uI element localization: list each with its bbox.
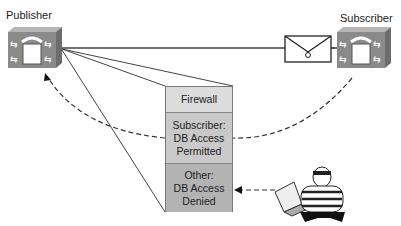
subscriber-access-path (233, 78, 352, 138)
svg-text:⇆: ⇆ (44, 54, 52, 64)
publisher-label: Publisher (6, 9, 52, 21)
firewall-header: Firewall (166, 87, 232, 113)
subscriber-permitted-rule: Subscriber: DB Access Permitted (166, 113, 232, 164)
firewall-stack: Firewall Subscriber: DB Access Permitted… (165, 86, 233, 212)
attacker-icon (275, 167, 345, 222)
svg-text:⇆: ⇆ (339, 54, 347, 64)
subscriber-device-icon: ⇆ ⇆ ⇆ ⇆ (337, 27, 391, 68)
svg-text:⇆: ⇆ (373, 54, 381, 64)
svg-text:⇆: ⇆ (339, 39, 347, 49)
svg-text:⇆: ⇆ (44, 39, 52, 49)
publisher-device-icon: ⇆ ⇆ ⇆ ⇆ (8, 27, 62, 68)
svg-text:⇆: ⇆ (10, 54, 18, 64)
diagram-canvas: ⇆ ⇆ ⇆ ⇆ ⇆ ⇆ ⇆ ⇆ (0, 0, 401, 226)
svg-text:⇆: ⇆ (373, 39, 381, 49)
envelope-icon (285, 36, 331, 62)
other-denied-rule: Other: DB Access Denied (166, 164, 232, 212)
svg-text:⇆: ⇆ (10, 39, 18, 49)
arrowhead-icon (44, 73, 51, 81)
subscriber-label: Subscriber (340, 12, 393, 24)
